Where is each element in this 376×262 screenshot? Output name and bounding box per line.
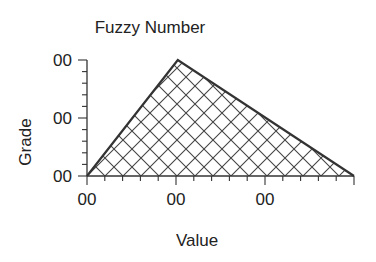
x-tick-label: 00	[256, 190, 275, 209]
x-tick-label: 00	[167, 190, 186, 209]
y-tick-label: 00	[53, 51, 72, 70]
chart-title: Fuzzy Number	[95, 18, 206, 37]
y-tick-label: 00	[53, 167, 72, 186]
chart: Fuzzy Number Value Grade 000000000000	[0, 0, 376, 262]
y-axis-label: Grade	[16, 118, 35, 165]
y-tick-label: 00	[53, 109, 72, 128]
series-area-fill	[87, 60, 354, 176]
plot-area: 000000000000	[53, 51, 354, 209]
x-tick-label: 00	[78, 190, 97, 209]
x-axis-label: Value	[176, 231, 218, 250]
